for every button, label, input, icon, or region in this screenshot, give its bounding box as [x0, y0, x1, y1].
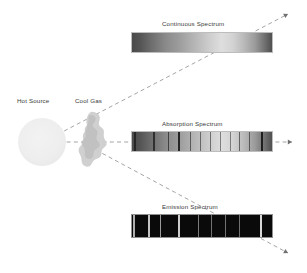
- absorption-spectral-line: [239, 132, 240, 151]
- emission-spectral-line: [198, 215, 199, 237]
- absorption-spectral-line: [230, 132, 231, 151]
- emission-spectral-line: [225, 215, 226, 237]
- absorption-spectral-line: [220, 132, 221, 151]
- absorption-spectral-line: [178, 132, 180, 151]
- emission-spectral-line: [272, 215, 273, 237]
- absorption-spectral-line: [153, 132, 154, 151]
- emission-spectral-line: [260, 215, 262, 237]
- emission-spectrum-band: [131, 214, 273, 238]
- continuous-spectrum-band: [131, 32, 273, 53]
- absorption-lines: [132, 132, 272, 151]
- absorption-spectral-line: [272, 132, 273, 151]
- continuous-spectrum-label: Continuous Spectrum: [0, 21, 307, 27]
- ray-down-emission-arrowhead: [283, 249, 288, 253]
- emission-spectral-line: [239, 215, 240, 237]
- absorption-spectral-line: [200, 132, 201, 151]
- absorption-spectrum-label: Absorption Spectrum: [0, 121, 307, 127]
- absorption-spectrum-band: [131, 131, 273, 152]
- emission-spectrum-label: Emission Spectrum: [0, 204, 307, 210]
- cool-gas-label: Cool Gas: [75, 98, 102, 104]
- emission-spectral-line: [160, 215, 161, 237]
- absorption-spectral-line: [249, 132, 250, 151]
- absorption-spectral-line: [190, 132, 191, 151]
- spectra-diagram: Hot Source Cool Gas Continuous Spectrum …: [0, 0, 307, 273]
- hot-source-label: Hot Source: [17, 98, 49, 104]
- absorption-spectral-line: [134, 132, 135, 151]
- continuous-lines: [132, 33, 272, 52]
- cool-gas-cloud: [78, 111, 108, 168]
- absorption-spectral-line: [210, 132, 211, 151]
- absorption-spectral-line: [168, 132, 169, 151]
- emission-spectral-line: [148, 215, 150, 237]
- emission-spectral-line: [211, 215, 212, 237]
- emission-spectral-line: [178, 215, 180, 237]
- emission-spectral-line: [133, 215, 134, 237]
- emission-lines: [132, 215, 272, 237]
- absorption-spectral-line: [261, 132, 263, 151]
- ray-horizontal-absorption-arrowhead: [288, 140, 292, 145]
